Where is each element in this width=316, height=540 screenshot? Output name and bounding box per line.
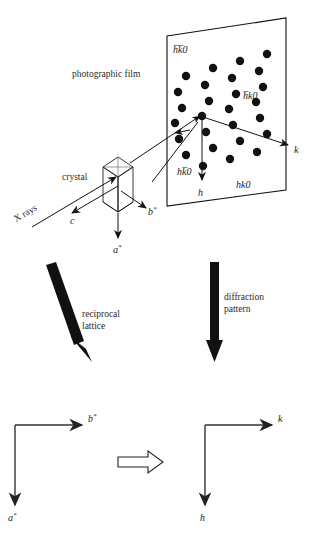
diffraction-spot xyxy=(253,148,261,156)
crystal-right-face xyxy=(118,167,133,212)
bottom-left-horizontal-axis-label: b* xyxy=(88,412,97,424)
diffraction-spot xyxy=(182,72,190,80)
film-label-h-k-0: hk0 xyxy=(236,179,250,190)
film-label-hbar-kbar-0: h̅k̅0 xyxy=(172,44,187,55)
reciprocal-lattice-label-line2: lattice xyxy=(82,321,105,331)
b-star-axis xyxy=(121,191,146,208)
figure-canvas: photographic film crystal X rays c b* a*… xyxy=(0,0,316,540)
diffraction-spot xyxy=(202,128,210,136)
diffraction-spot xyxy=(236,137,244,145)
diffraction-diagram: photographic film crystal X rays c b* a*… xyxy=(0,0,316,540)
reciprocal-lattice-axes xyxy=(15,425,82,505)
bottom-right-horizontal-axis-label: k xyxy=(278,413,283,424)
bottom-right-vertical-axis-label: h xyxy=(200,512,205,523)
diffraction-spot xyxy=(256,114,264,122)
film-k-axis-label: k xyxy=(294,144,299,155)
diffraction-pattern-axes xyxy=(205,425,272,505)
film-label-h-kbar-0: hk̅0 xyxy=(177,166,191,177)
diffraction-spot xyxy=(174,88,182,96)
diffraction-spot xyxy=(232,90,240,98)
diffraction-spot xyxy=(205,97,213,105)
diffraction-spot xyxy=(209,144,217,152)
film-label-hbar-k-0: h̅k0 xyxy=(242,90,257,101)
diffraction-spot xyxy=(259,83,267,91)
x-rays-label: X rays xyxy=(12,202,39,223)
b-star-axis-label: b* xyxy=(148,205,157,217)
crystal-left-face xyxy=(103,167,118,212)
crystal-prism xyxy=(103,157,133,212)
bottom-left-vertical-axis-label: a* xyxy=(8,511,17,523)
crystal-bottom-right-edge xyxy=(118,202,133,212)
diffraction-spot xyxy=(226,155,234,163)
diffraction-spot xyxy=(209,64,217,72)
diffraction-spot xyxy=(199,162,207,170)
diffraction-spot xyxy=(228,74,236,82)
diffraction-spot xyxy=(182,151,190,159)
diffraction-pattern-arrow-shaft xyxy=(210,262,219,347)
reciprocal-lattice-arrow-shaft xyxy=(46,262,84,345)
hollow-right-arrow xyxy=(118,451,163,473)
b-star-axis-arrow xyxy=(121,191,146,208)
diffraction-spot xyxy=(178,104,186,112)
photographic-film-label: photographic film xyxy=(72,69,141,79)
diffraction-spot-lattice xyxy=(171,50,271,170)
diffraction-spot xyxy=(225,105,233,113)
diffraction-pattern-label-line2: pattern xyxy=(224,304,251,314)
diffraction-pattern-label-line1: diffraction xyxy=(224,292,264,302)
diffraction-pattern-arrow-head xyxy=(206,340,223,362)
diffraction-spot xyxy=(201,81,209,89)
diffraction-spot xyxy=(171,119,179,127)
diffraction-spot xyxy=(236,57,244,65)
film-k-axis-arrow xyxy=(203,117,288,145)
transition-arrows xyxy=(46,262,223,362)
reciprocal-lattice-label-line1: reciprocal xyxy=(82,309,120,319)
equivalence-arrow xyxy=(118,451,163,473)
c-axis-label: c xyxy=(70,215,75,226)
diffraction-spot xyxy=(263,50,271,58)
diffraction-spot xyxy=(255,67,263,75)
crystal-label: crystal xyxy=(62,172,88,182)
incident-xray-beam xyxy=(32,177,118,227)
film-h-axis-label: h xyxy=(198,187,203,198)
crystal-bottom-left-edge xyxy=(103,202,118,212)
a-star-axis-label: a* xyxy=(113,243,122,255)
